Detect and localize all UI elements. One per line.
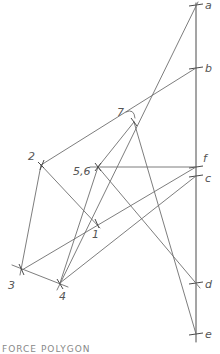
force-polygon-diagram: a b f c d e [0,0,220,354]
node-marks [19,118,137,289]
node-label-2: 2 [28,150,35,163]
node-label-7: 7 [117,106,124,119]
node-label-4: 4 [59,290,66,303]
point-label-d: d [205,278,213,291]
point-label-f: f [203,152,209,165]
node-label-5-6: 5,6 [73,165,91,178]
node-7-leader [126,111,135,118]
diagram-caption: FORCE POLYGON [2,344,91,354]
point-label-b: b [205,62,212,75]
construction-lines [12,2,200,334]
point-label-e: e [205,328,212,341]
point-label-a: a [205,0,212,12]
point-label-c: c [205,172,211,185]
node-label-1: 1 [92,228,99,241]
node-label-3: 3 [8,279,15,292]
